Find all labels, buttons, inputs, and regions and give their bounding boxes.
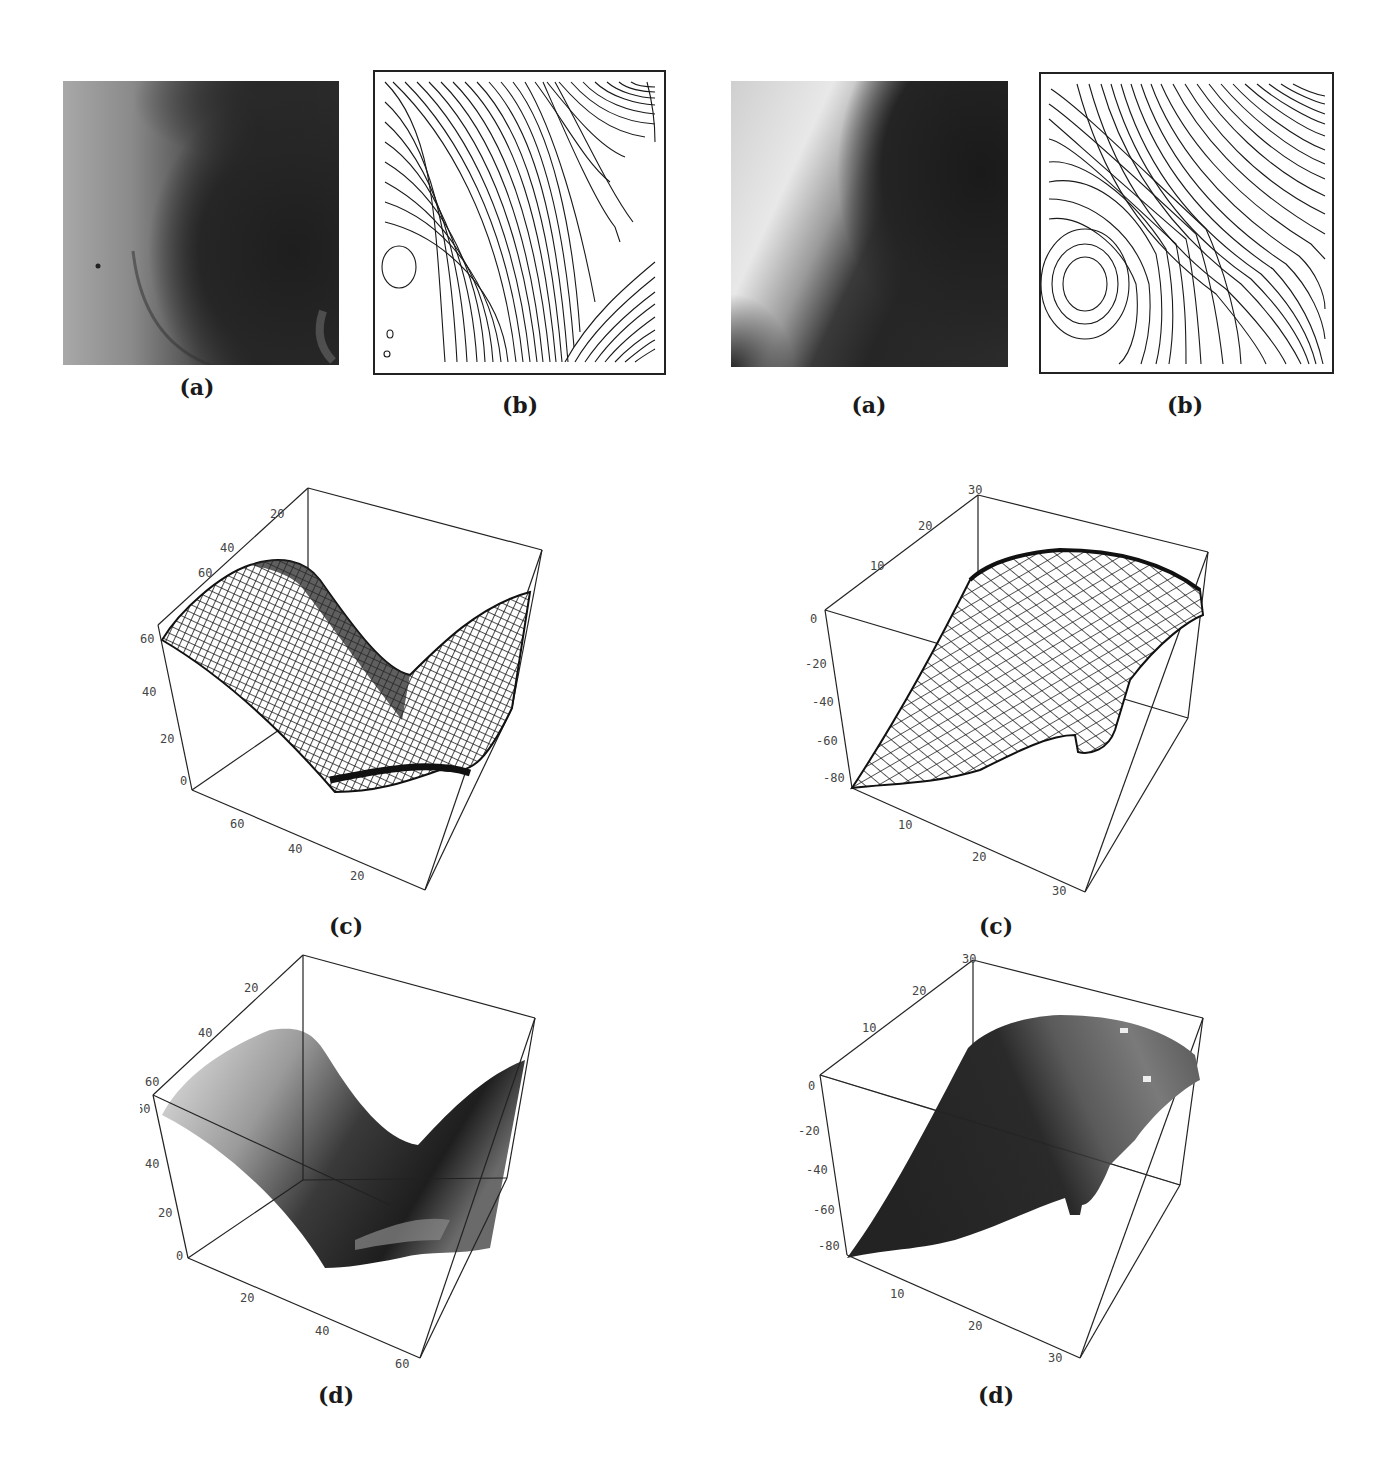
tick-label: 20: [350, 869, 364, 883]
tick-label: 20: [270, 507, 284, 521]
tick-label: -20: [805, 657, 827, 671]
tick-label: -80: [823, 771, 845, 785]
tick-label: 30: [1052, 884, 1066, 898]
tick-label: 40: [315, 1324, 329, 1338]
tick-label: 10: [862, 1021, 876, 1035]
tick-label: 0: [810, 612, 817, 626]
left-image-a: [63, 81, 339, 365]
tick-label: 40: [288, 842, 302, 856]
tick-label: 60: [140, 632, 154, 646]
tick-label: 10: [870, 559, 884, 573]
right-contour-b: [1039, 72, 1334, 374]
tick-label: 40: [198, 1026, 212, 1040]
left-caption-a: (a): [157, 374, 237, 400]
right-surface-c: 30 20 10 0 -20 -40 -60 -80 10 20 30: [790, 480, 1230, 900]
tick-label: 60: [145, 1075, 159, 1089]
tick-label: 20: [968, 1319, 982, 1333]
tick-label: 30: [1048, 1351, 1062, 1365]
tick-label: 10: [890, 1287, 904, 1301]
right-contour-lines: [1041, 74, 1332, 372]
tick-label: 20: [160, 732, 174, 746]
left-contour-lines: [375, 72, 664, 373]
tick-label: 20: [972, 850, 986, 864]
tick-label: 30: [962, 952, 976, 966]
tick-label: 40: [220, 541, 234, 555]
tick-label: 20: [912, 984, 926, 998]
tick-label: 60: [198, 566, 212, 580]
tick-label: -40: [806, 1163, 828, 1177]
tick-label: -40: [812, 695, 834, 709]
tick-label: -20: [798, 1124, 820, 1138]
tick-label: 30: [968, 483, 982, 497]
tick-label: 60: [140, 1102, 150, 1116]
tick-label: 0: [808, 1079, 815, 1093]
tick-label: 0: [176, 1249, 183, 1263]
tick-label: 20: [918, 519, 932, 533]
tick-label: -60: [813, 1203, 835, 1217]
tick-label: -60: [816, 734, 838, 748]
right-caption-c: (c): [956, 913, 1036, 939]
tick-label: 40: [145, 1157, 159, 1171]
left-surface-c: 20 40 60 60 40 20 0 60 40 20: [140, 480, 560, 900]
right-caption-a: (a): [829, 392, 909, 418]
left-contour-b: [373, 70, 666, 375]
left-caption-c: (c): [306, 913, 386, 939]
left-caption-d: (d): [296, 1382, 376, 1408]
left-caption-b: (b): [480, 392, 560, 418]
tick-label: 40: [142, 685, 156, 699]
tick-label: 60: [395, 1357, 409, 1370]
right-caption-b: (b): [1145, 392, 1225, 418]
right-surface-d: 30 20 10 0 -20 -40 -60 -80 10 20 30: [790, 950, 1230, 1370]
tick-label: 20: [244, 981, 258, 995]
right-image-a: [731, 81, 1008, 367]
tick-label: 20: [240, 1291, 254, 1305]
tick-label: 20: [158, 1206, 172, 1220]
left-surface-d: 20 40 60 60 40 20 0 20 40 60: [140, 950, 560, 1370]
tick-label: -80: [818, 1239, 840, 1253]
right-caption-d: (d): [956, 1382, 1036, 1408]
tick-label: 10: [898, 818, 912, 832]
tick-label: 60: [230, 817, 244, 831]
tick-label: 0: [180, 774, 187, 788]
